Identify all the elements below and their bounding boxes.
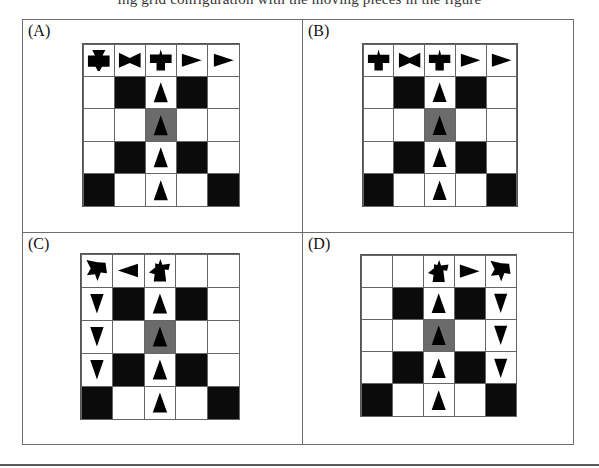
grid-cell-r3-c3	[175, 353, 208, 387]
arrow-down-icon	[486, 288, 516, 319]
arrow-up-icon	[146, 109, 176, 140]
grid-cell-r4-c2	[145, 173, 177, 206]
arrow-down-icon	[486, 352, 516, 383]
grid-cell-r4-c2	[423, 383, 455, 416]
arrow-right-icon	[455, 256, 485, 287]
grid-cell-r2-c4	[207, 108, 239, 141]
grid-cell-r0-c4	[207, 44, 239, 77]
grid-cell-r1-c3	[455, 76, 487, 109]
grid-cell-r0-c1	[393, 44, 425, 77]
cut-off-caption: ing grid configuration with the moving p…	[0, 0, 599, 5]
grid-cell-r0-c0	[81, 254, 114, 288]
grid-cell-r1-c2	[424, 76, 456, 109]
grid-cell-r2-c4	[486, 108, 518, 141]
grid-cell-r0-c1	[112, 254, 145, 288]
arrow-down-icon	[82, 321, 113, 353]
arrow-up-icon	[145, 321, 176, 353]
panel-c-label: (C)	[28, 236, 49, 252]
panel-b-label: (B)	[308, 23, 329, 39]
grid-cell-r2-c1	[114, 108, 146, 141]
grid-cell-r3-c0	[81, 353, 114, 387]
arrow-up-icon	[145, 387, 176, 419]
arrow-up-icon	[424, 384, 454, 415]
grid-cell-r3-c0	[83, 141, 115, 174]
grid-cell-r4-c4	[207, 173, 239, 206]
bird-icon	[146, 45, 176, 76]
grid-cell-r1-c4	[207, 76, 239, 109]
panel-a-label: (A)	[28, 23, 50, 39]
grid-cell-r1-c0	[363, 76, 395, 109]
grid-cell-r4-c0	[83, 173, 115, 206]
tilted-star-icon	[486, 256, 516, 287]
grid-cell-r1-c4	[485, 287, 517, 320]
grid-cell-r1-c0	[361, 287, 393, 320]
grid-cell-r0-c4	[207, 254, 240, 288]
grid-cell-r2-c1	[392, 319, 424, 352]
panel-a-grid	[82, 43, 240, 207]
arrow-left-icon	[113, 255, 144, 287]
grid-cell-r1-c1	[392, 287, 424, 320]
arrow-up-icon	[146, 77, 176, 108]
grid-cell-r2-c2	[423, 319, 455, 352]
grid-cell-r2-c4	[207, 320, 240, 354]
grid-cell-r4-c1	[112, 386, 145, 420]
arrow-up-icon	[424, 352, 454, 383]
grid-cell-r3-c1	[112, 353, 145, 387]
arrow-right-icon	[456, 45, 486, 76]
grid-cell-r2-c1	[112, 320, 145, 354]
grid-cell-r2-c2	[424, 108, 456, 141]
arrow-up-icon	[425, 142, 455, 173]
grid-cell-r0-c1	[114, 44, 146, 77]
grid-cell-r4-c0	[81, 386, 114, 420]
grid-cell-r3-c2	[423, 351, 455, 384]
arrow-up-icon	[425, 174, 455, 205]
grid-cell-r1-c4	[207, 287, 240, 321]
arrow-up-icon	[145, 354, 176, 386]
grid-cell-r2-c1	[393, 108, 425, 141]
grid-cell-r0-c0	[363, 44, 395, 77]
grid-cell-r0-c4	[486, 44, 518, 77]
panel-d-label: (D)	[308, 236, 330, 252]
grid-cell-r4-c0	[361, 383, 393, 416]
grid-cell-r3-c1	[392, 351, 424, 384]
grid-cell-r2-c3	[454, 319, 486, 352]
grid-cell-r3-c2	[424, 141, 456, 174]
grid-cell-r3-c0	[363, 141, 395, 174]
grid-cell-r1-c3	[175, 287, 208, 321]
grid-cell-r2-c0	[81, 320, 114, 354]
grid-cell-r1-c3	[176, 76, 208, 109]
grid-cell-r0-c1	[392, 255, 424, 288]
bird-icon	[364, 45, 394, 76]
grid-cell-r3-c3	[455, 141, 487, 174]
grid-cell-r3-c3	[454, 351, 486, 384]
arrow-right-icon	[487, 45, 517, 76]
grid-cell-r0-c2	[424, 44, 456, 77]
grid-cell-r0-c0	[83, 44, 115, 77]
bowtie-icon	[115, 45, 145, 76]
grid-cell-r2-c0	[363, 108, 395, 141]
arrow-down-icon	[82, 288, 113, 320]
grid-cell-r1-c4	[486, 76, 518, 109]
grid-cell-r1-c0	[83, 76, 115, 109]
grid-cell-r3-c2	[145, 141, 177, 174]
grid-cell-r2-c3	[175, 320, 208, 354]
grid-cell-r4-c2	[144, 386, 177, 420]
grid-cell-r4-c3	[454, 383, 486, 416]
grid-cell-r0-c3	[455, 44, 487, 77]
grid-cell-r0-c2	[144, 254, 177, 288]
grid-cell-r2-c2	[145, 108, 177, 141]
grid-cell-r1-c2	[423, 287, 455, 320]
grid-cell-r4-c4	[486, 173, 518, 206]
grid-cell-r4-c1	[114, 173, 146, 206]
grid-cell-r1-c2	[144, 287, 177, 321]
arrow-down-icon	[486, 320, 516, 351]
tilted-bird-icon	[145, 255, 176, 287]
grid-cell-r2-c3	[455, 108, 487, 141]
grid-cell-r0-c2	[145, 44, 177, 77]
panel-d-grid	[360, 254, 517, 417]
grid-cell-r3-c4	[486, 141, 518, 174]
tilted-bird-icon	[424, 256, 454, 287]
grid-cell-r1-c2	[145, 76, 177, 109]
arrow-up-icon	[424, 288, 454, 319]
cross-icon	[84, 45, 114, 76]
